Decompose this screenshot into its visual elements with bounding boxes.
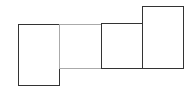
- diagram-canvas: [0, 0, 196, 88]
- rectangle-3: [101, 23, 143, 69]
- rectangle-1: [18, 24, 60, 86]
- rectangle-4: [142, 6, 184, 69]
- rectangle-2: [59, 24, 102, 69]
